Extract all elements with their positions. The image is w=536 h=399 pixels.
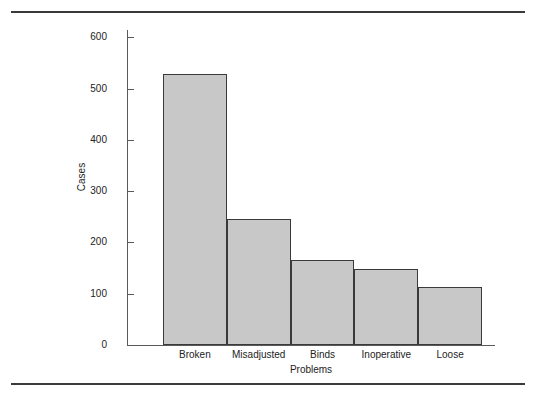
bar-chart-figure: 0100200300400500600 BrokenMisadjustedBin… [0,0,536,399]
y-axis-tick [127,345,134,346]
y-axis-tick-label-text: 300 [7,186,107,196]
y-axis-tick-label-text: 0 [7,340,107,350]
y-axis-title: Cases [77,157,87,197]
page-canvas: 0100200300400500600 BrokenMisadjustedBin… [0,0,536,399]
y-axis-tick [127,294,134,295]
y-axis-tick [127,37,134,38]
bar [354,269,418,345]
y-axis-tick-label: 200 [0,237,121,247]
y-axis-tick-label-text: 100 [7,289,107,299]
y-axis-tick-label-text: 600 [7,32,107,42]
x-axis-title: Problems [127,364,495,375]
y-axis-tick [127,191,134,192]
y-axis-tick-label-text: 400 [7,135,107,145]
y-axis-tick-label: 600 [0,32,121,42]
x-axis-line [127,345,495,346]
y-axis-tick-label: 500 [0,84,121,94]
x-axis-category-label: Loose [406,349,494,360]
y-axis-tick-label: 0 [0,340,121,350]
y-axis-tick-label: 300 [0,186,121,196]
y-axis-tick-label-text: 500 [7,84,107,94]
page-bottom-rule [11,383,525,385]
bar [163,74,227,345]
y-axis-tick-label: 100 [0,289,121,299]
bar [227,219,291,345]
y-axis-line [127,30,128,346]
bar [418,287,482,345]
bar [291,260,355,345]
y-axis-tick-label-text: 200 [7,237,107,247]
y-axis-tick-label: 400 [0,135,121,145]
y-axis-tick [127,242,134,243]
y-axis-tick [127,140,134,141]
y-axis-tick [127,89,134,90]
